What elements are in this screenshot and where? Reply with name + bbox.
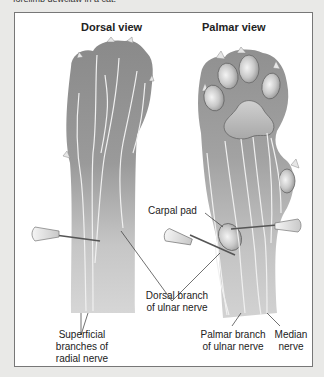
palmar-view-title: Palmar view bbox=[202, 21, 266, 33]
carpal-pad-label: Carpal pad bbox=[148, 205, 197, 217]
paw-nerve-diagram bbox=[15, 13, 314, 368]
palmar-branch-ulnar-label: Palmar branch of ulnar nerve bbox=[193, 329, 273, 353]
diagram-frame: Dorsal view Palmar view Carpal pad Dorsa… bbox=[14, 12, 313, 367]
dorsal-paw bbox=[63, 37, 154, 313]
dorsal-view-title: Dorsal view bbox=[81, 21, 142, 33]
dorsal-branch-ulnar-label: Dorsal branch of ulnar nerve bbox=[137, 290, 217, 314]
palmar-paw bbox=[198, 47, 299, 318]
superficial-radial-label: Superficial branches of radial nerve bbox=[50, 329, 114, 365]
figure-caption: forelimb dewclaw in a cat. bbox=[13, 0, 116, 4]
median-nerve-label: Median nerve bbox=[271, 329, 311, 353]
